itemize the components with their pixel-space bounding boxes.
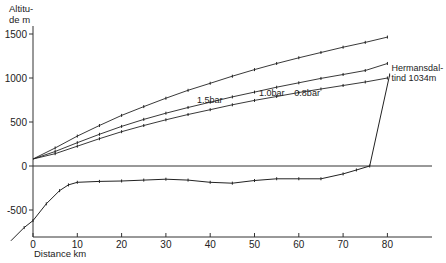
x-tick-label: 0 [30, 239, 36, 250]
x-tick-label: 50 [249, 239, 261, 250]
series-label: 1.0bar [259, 88, 285, 98]
annotations: Hermansdal-tind 1034m [392, 63, 444, 83]
x-tick-label: 40 [205, 239, 217, 250]
y-tick-label: 1500 [5, 29, 28, 40]
y-tick-label: 1000 [5, 73, 28, 84]
peak-annotation-line: Hermansdal- [392, 63, 444, 73]
x-tick-label: 30 [160, 239, 172, 250]
altitude-profile-chart: Altitu- de m Distance km 150010005000-50… [0, 0, 446, 263]
x-tick-label: 20 [116, 239, 128, 250]
y-tick-label: 0 [21, 161, 27, 172]
x-tick-label: 70 [338, 239, 350, 250]
series-line-0-8-bar [33, 78, 387, 159]
y-axis-label-line-2: de m [9, 14, 30, 25]
x-tick-label: 80 [382, 239, 394, 250]
series-label: 0.8bar [294, 88, 320, 98]
series-labels: 1.5bar1.0bar0.8bar [197, 88, 320, 104]
series-label: 1.5bar [197, 95, 223, 105]
x-tick-label: 10 [72, 239, 84, 250]
series-line-1-0-bar [33, 64, 387, 160]
y-axis-label-line-1: Altitu- [9, 3, 33, 14]
y-ticks: 150010005000-500 [5, 29, 33, 216]
x-tick-label: 60 [293, 239, 305, 250]
peak-annotation-line: tind 1034m [392, 73, 437, 83]
y-tick-label: 500 [10, 117, 27, 128]
y-tick-label: -500 [7, 205, 27, 216]
series-group [11, 36, 390, 241]
